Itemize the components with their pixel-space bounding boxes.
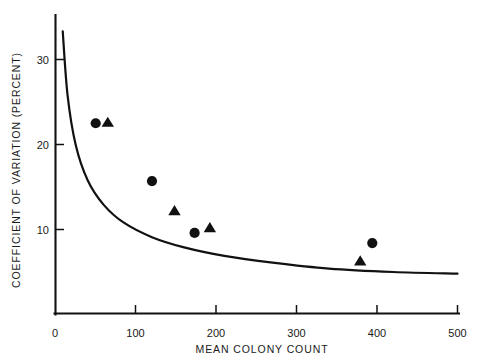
scatter-plot-canvas: 30 20 10 0 100 200 300 400 500 MEAN COLO…: [0, 0, 480, 363]
data-point-circle: [91, 118, 101, 128]
data-point-circle: [189, 228, 199, 238]
triangle-data-points: [102, 117, 367, 266]
y-tick-label-20: 20: [37, 139, 49, 151]
data-point-triangle: [354, 255, 366, 265]
y-axis-title: COEFFICIENT OF VARIATION (PERCENT): [10, 52, 22, 288]
y-tick-label-30: 30: [37, 54, 49, 66]
data-point-triangle: [168, 205, 180, 215]
data-point-circle: [147, 176, 157, 186]
x-tick-label-0: 0: [52, 327, 58, 339]
y-tick-label-10: 10: [37, 224, 49, 236]
x-tick-label-400: 400: [368, 327, 386, 339]
data-point-triangle: [102, 117, 114, 127]
theoretical-curve: [63, 31, 458, 273]
x-tick-label-500: 500: [448, 327, 466, 339]
data-point-triangle: [204, 222, 216, 232]
x-tick-label-200: 200: [207, 327, 225, 339]
x-tick-label-100: 100: [126, 327, 144, 339]
data-point-circle: [367, 238, 377, 248]
x-axis-title: MEAN COLONY COUNT: [196, 343, 329, 355]
x-tick-label-300: 300: [287, 327, 305, 339]
chart-figure: 30 20 10 0 100 200 300 400 500 MEAN COLO…: [0, 0, 480, 363]
